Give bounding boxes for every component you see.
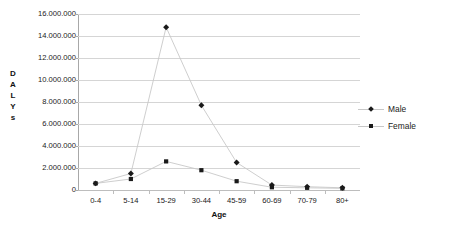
data-point-female-5-14 xyxy=(129,177,133,181)
chart-container: DALYs 02.000.0004.000.0006.000.0008.000.… xyxy=(0,0,451,230)
series-layer xyxy=(78,14,360,190)
legend-label: Male xyxy=(384,104,406,114)
data-point-female-45-59 xyxy=(235,179,239,183)
series-line-male xyxy=(96,27,343,188)
legend-item-male[interactable]: Male xyxy=(358,100,448,117)
y-axis-tick-label: 16.000.000 xyxy=(22,10,76,18)
data-point-female-70-79 xyxy=(305,186,309,190)
legend-swatch-female xyxy=(358,121,384,131)
y-axis-title-letter: Y xyxy=(6,101,20,112)
legend-item-female[interactable]: Female xyxy=(358,117,448,134)
y-axis-title-letter: D xyxy=(6,68,20,79)
y-axis-tick-label: 0 xyxy=(22,186,76,194)
x-axis-tick-mark xyxy=(325,190,326,194)
data-point-female-60-69 xyxy=(270,185,274,189)
x-axis-tick-mark xyxy=(290,190,291,194)
y-axis-tick-labels: 02.000.0004.000.0006.000.0008.000.00010.… xyxy=(22,14,76,190)
data-point-female-80+ xyxy=(340,186,344,190)
y-axis-tick-label: 4.000.000 xyxy=(22,142,76,150)
data-point-male-30-44 xyxy=(198,102,204,108)
legend-marker-diamond-icon xyxy=(368,106,374,112)
x-axis-title: Age xyxy=(78,210,360,219)
data-point-male-15-29 xyxy=(163,24,169,30)
y-axis-title-letter: A xyxy=(6,79,20,90)
y-axis-title: DALYs xyxy=(6,68,20,123)
y-axis-tick-label: 2.000.000 xyxy=(22,164,76,172)
plot-area xyxy=(78,14,360,190)
x-axis-tick-mark xyxy=(149,190,150,194)
y-axis-title-letter: s xyxy=(6,112,20,123)
x-axis-tick-mark xyxy=(254,190,255,194)
data-point-male-45-59 xyxy=(234,160,240,166)
x-axis-tick-mark xyxy=(184,190,185,194)
data-point-female-30-44 xyxy=(199,168,203,172)
legend-label: Female xyxy=(384,121,416,131)
x-axis-tick-labels: 0-45-1415-2930-4445-5960-6970-7980+ xyxy=(78,196,360,208)
legend-marker-square-icon xyxy=(369,124,373,128)
y-axis-tick-label: 10.000.000 xyxy=(22,76,76,84)
y-axis-tick-label: 12.000.000 xyxy=(22,54,76,62)
data-point-female-15-29 xyxy=(164,159,168,163)
data-point-male-5-14 xyxy=(128,171,134,177)
y-axis-tick-label: 14.000.000 xyxy=(22,32,76,40)
data-point-female-0-4 xyxy=(94,181,98,185)
legend-swatch-male xyxy=(358,104,384,114)
x-axis-tick-mark xyxy=(113,190,114,194)
y-axis-tick-label: 6.000.000 xyxy=(22,120,76,128)
x-axis-tick-mark xyxy=(219,190,220,194)
chart-legend: MaleFemale xyxy=(358,100,448,134)
y-axis-title-letter: L xyxy=(6,90,20,101)
x-axis-tick-label: 80+ xyxy=(320,196,364,206)
y-axis-tick-label: 8.000.000 xyxy=(22,98,76,106)
